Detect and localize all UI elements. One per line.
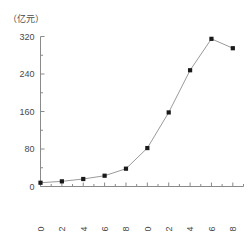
data-line xyxy=(41,39,233,183)
svg-text:160: 160 xyxy=(19,107,34,117)
svg-text:2010: 2010 xyxy=(143,227,153,232)
svg-text:0: 0 xyxy=(29,182,34,192)
y-axis-tick-labels: 080160240320 xyxy=(19,32,34,192)
svg-text:320: 320 xyxy=(19,32,34,42)
line-chart: 080160240320 200020022004200620082010201… xyxy=(0,0,251,231)
svg-text:2016: 2016 xyxy=(207,227,217,232)
svg-text:2014: 2014 xyxy=(185,227,195,232)
data-markers xyxy=(38,37,235,185)
x-axis-tick-labels: 2000200220042006200820102012201420162018 xyxy=(36,227,238,232)
svg-text:2000: 2000 xyxy=(36,227,46,232)
svg-text:2012: 2012 xyxy=(164,227,174,232)
svg-text:2002: 2002 xyxy=(57,227,67,232)
svg-text:240: 240 xyxy=(19,69,34,79)
svg-text:2018: 2018 xyxy=(228,227,238,232)
svg-text:2008: 2008 xyxy=(121,227,131,232)
y-axis-ticks xyxy=(41,37,45,187)
x-axis-ticks xyxy=(41,183,244,187)
svg-text:2004: 2004 xyxy=(79,227,89,232)
chart-container: （亿元） 080160240320 2000200220042006200820… xyxy=(0,0,251,231)
svg-text:2006: 2006 xyxy=(100,227,110,232)
svg-text:80: 80 xyxy=(24,144,34,154)
